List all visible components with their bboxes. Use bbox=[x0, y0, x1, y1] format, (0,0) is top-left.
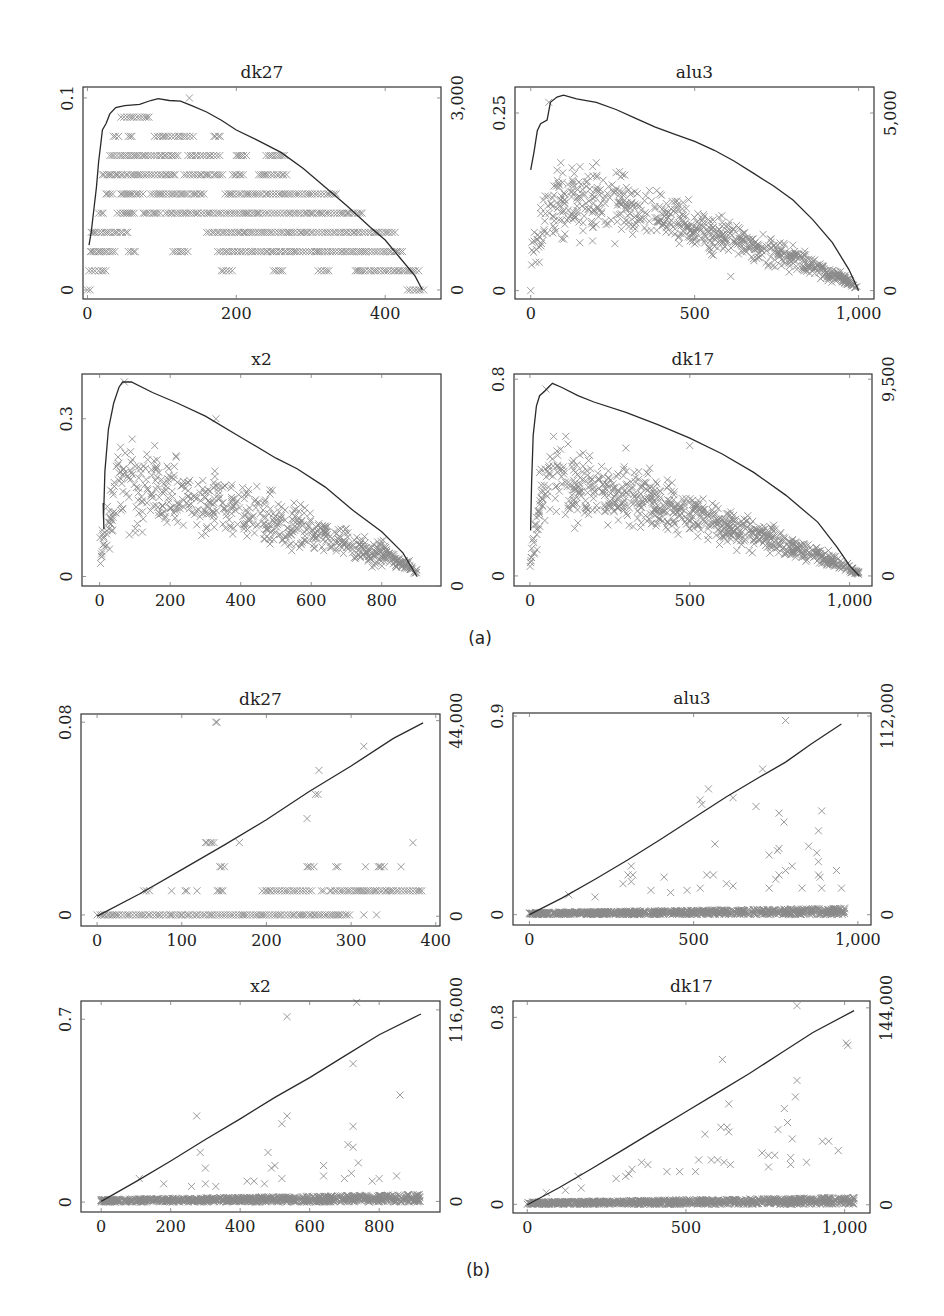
chart-panel-b-alu3: alu305001,00000.90112,000 bbox=[488, 683, 897, 949]
x-tick-label: 1,000 bbox=[827, 591, 873, 610]
x-tick-label: 400 bbox=[225, 591, 256, 610]
x-tick-label: 0 bbox=[82, 304, 92, 323]
y-tick-label: 0.1 bbox=[58, 85, 77, 110]
y-tick-label: 0 bbox=[489, 571, 508, 581]
chart-title: alu3 bbox=[676, 62, 713, 82]
x-tick-label: 1,000 bbox=[822, 1218, 868, 1237]
y2-tick-label: 44,000 bbox=[447, 693, 466, 749]
y2-tick-label: 112,000 bbox=[878, 683, 897, 749]
x-tick-label: 0 bbox=[96, 1217, 106, 1236]
y2-tick-label: 0 bbox=[447, 911, 466, 921]
scatter-markers bbox=[524, 1002, 858, 1208]
cost-line bbox=[529, 724, 841, 915]
scatter-markers bbox=[527, 99, 860, 294]
y-tick-label: 0 bbox=[56, 1197, 75, 1207]
x-tick-label: 600 bbox=[294, 1217, 325, 1236]
y-tick-label: 0 bbox=[488, 910, 507, 920]
chart-panel-a-dk17: dk1705001,00000.809,500 bbox=[489, 349, 898, 610]
scatter-markers bbox=[97, 378, 421, 576]
chart-title: alu3 bbox=[673, 688, 710, 708]
x-tick-label: 200 bbox=[251, 931, 282, 950]
x-tick-label: 400 bbox=[370, 304, 401, 323]
y2-tick-label: 144,000 bbox=[877, 975, 896, 1041]
x-tick-label: 0 bbox=[526, 304, 536, 323]
x-tick-label: 500 bbox=[671, 1218, 702, 1237]
chart-title: dk27 bbox=[241, 62, 284, 82]
y-tick-label: 0 bbox=[490, 286, 509, 296]
y2-tick-label: 0 bbox=[447, 1196, 466, 1206]
x-tick-label: 200 bbox=[221, 304, 252, 323]
x-tick-label: 600 bbox=[296, 591, 327, 610]
y-tick-label: 0 bbox=[56, 910, 75, 920]
y-tick-label: 0 bbox=[57, 571, 76, 581]
x-tick-label: 200 bbox=[155, 1217, 186, 1236]
y2-tick-label: 0 bbox=[877, 1200, 896, 1210]
y-tick-label: 0.25 bbox=[490, 95, 509, 131]
chart-title: dk27 bbox=[239, 689, 282, 709]
y-tick-label: 0.08 bbox=[56, 704, 75, 740]
y2-tick-label: 5,000 bbox=[881, 90, 900, 136]
x-tick-label: 100 bbox=[166, 931, 197, 950]
y2-tick-label: 0 bbox=[881, 286, 900, 296]
caption-a: (a) bbox=[468, 628, 492, 648]
y2-tick-label: 0 bbox=[879, 571, 898, 581]
x-tick-label: 1,000 bbox=[836, 304, 882, 323]
x-tick-label: 0 bbox=[92, 931, 102, 950]
x-tick-label: 500 bbox=[678, 930, 709, 949]
scatter-markers bbox=[84, 94, 427, 293]
x-tick-label: 1,000 bbox=[835, 930, 881, 949]
x-tick-label: 400 bbox=[225, 1217, 256, 1236]
y-tick-label: 0 bbox=[58, 285, 77, 295]
x-tick-label: 400 bbox=[420, 931, 451, 950]
chart-panel-a-x2: x2020040060080000.30 bbox=[57, 349, 467, 610]
x-tick-label: 500 bbox=[679, 304, 710, 323]
x-tick-label: 0 bbox=[525, 591, 535, 610]
y2-tick-label: 9,500 bbox=[879, 356, 898, 402]
cost-line bbox=[97, 723, 423, 916]
cost-line bbox=[101, 1014, 421, 1201]
caption-b: (b) bbox=[466, 1260, 490, 1280]
scatter-markers bbox=[526, 717, 848, 918]
x-tick-label: 0 bbox=[95, 591, 105, 610]
chart-title: dk17 bbox=[672, 349, 715, 369]
x-tick-label: 300 bbox=[336, 931, 367, 950]
x-tick-label: 500 bbox=[675, 591, 706, 610]
chart-panel-a-dk27: dk27020040000.103,000 bbox=[58, 62, 467, 323]
y2-tick-label: 3,000 bbox=[448, 75, 467, 121]
plot-frame bbox=[513, 1001, 870, 1213]
x-tick-label: 800 bbox=[364, 1217, 395, 1236]
y-tick-label: 0.8 bbox=[489, 366, 508, 391]
chart-title: x2 bbox=[250, 976, 270, 996]
cost-line bbox=[527, 1011, 854, 1205]
y2-tick-label: 0 bbox=[448, 285, 467, 295]
y2-tick-label: 116,000 bbox=[447, 977, 466, 1043]
figure: dk27020040000.103,000alu305001,00000.250… bbox=[0, 0, 944, 1316]
chart-panel-b-x2: x2020040060080000.70116,000 bbox=[56, 976, 466, 1236]
chart-panel-a-alu3: alu305001,00000.2505,000 bbox=[490, 62, 900, 323]
x-tick-label: 200 bbox=[155, 591, 186, 610]
scatter-markers bbox=[527, 386, 863, 578]
y-tick-label: 0 bbox=[488, 1199, 507, 1209]
y-tick-label: 0.3 bbox=[57, 406, 76, 431]
x-tick-label: 0 bbox=[524, 930, 534, 949]
figure-plots: dk27020040000.103,000alu305001,00000.250… bbox=[0, 0, 944, 1316]
x-tick-label: 800 bbox=[366, 591, 397, 610]
y2-tick-label: 0 bbox=[878, 910, 897, 920]
chart-title: dk17 bbox=[670, 976, 713, 996]
x-tick-label: 0 bbox=[522, 1218, 532, 1237]
y2-tick-label: 0 bbox=[448, 581, 467, 591]
chart-panel-b-dk27: dk27010020030040000.08044,000 bbox=[56, 689, 466, 950]
y-tick-label: 0.8 bbox=[488, 1005, 507, 1030]
y-tick-label: 0.7 bbox=[56, 1007, 75, 1032]
scatter-markers bbox=[94, 719, 426, 919]
chart-panel-b-dk17: dk1705001,00000.80144,000 bbox=[488, 975, 896, 1237]
y-tick-label: 0.9 bbox=[488, 703, 507, 728]
chart-title: x2 bbox=[251, 349, 271, 369]
